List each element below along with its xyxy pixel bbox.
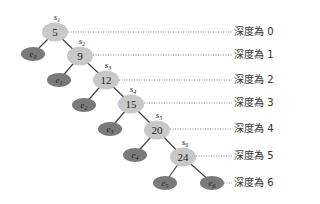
node-name: s4 bbox=[130, 84, 137, 95]
depth-label-5: 深度為 5 bbox=[234, 150, 274, 162]
node-value: 9 bbox=[77, 50, 83, 62]
node-value: 24 bbox=[178, 151, 190, 163]
depth-label-4: 深度為 4 bbox=[234, 123, 274, 135]
node-value: 15 bbox=[126, 98, 138, 110]
depth-label-6: 深度為 6 bbox=[234, 177, 274, 189]
node-value: 5 bbox=[52, 26, 58, 38]
node-name: s5 bbox=[156, 110, 163, 121]
node-name: s6 bbox=[182, 137, 189, 148]
node-value: 12 bbox=[101, 74, 112, 86]
node-name: s2 bbox=[79, 36, 86, 47]
depth-label-3: 深度為 3 bbox=[234, 97, 274, 109]
node-name: s3 bbox=[105, 60, 112, 71]
depth-label-0: 深度為 0 bbox=[234, 26, 274, 38]
depth-label-1: 深度為 1 bbox=[234, 49, 274, 61]
depth-label-2: 深度為 2 bbox=[234, 74, 274, 86]
node-name: s1 bbox=[54, 12, 61, 23]
node-value: 20 bbox=[152, 124, 164, 136]
